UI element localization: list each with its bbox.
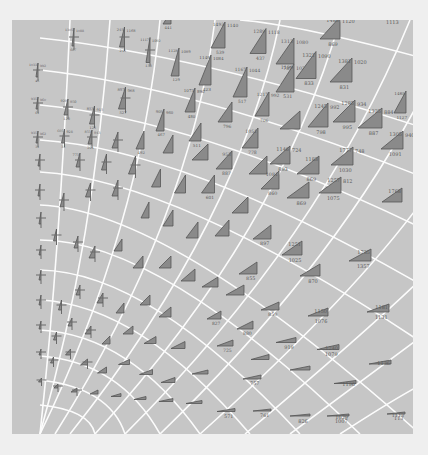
glyph-top-label: 1240 — [325, 345, 338, 351]
triangle-glyph — [57, 300, 67, 314]
glyph-bottom-label: 437 — [256, 56, 265, 61]
triangle-glyph — [251, 355, 269, 360]
triangle-glyph: 855 — [239, 262, 257, 281]
triangle-shape — [152, 169, 161, 187]
glyph-top-label: 897 — [117, 88, 125, 92]
triangle-glyph — [134, 397, 146, 400]
glyph-bottom-label: 893 — [278, 166, 288, 172]
triangle-glyph: 11501076 — [308, 308, 328, 324]
triangle-glyph — [161, 378, 175, 383]
triangle-glyph — [290, 366, 310, 370]
triangle-shape — [161, 378, 175, 383]
glyph-top-label: 1128 — [168, 48, 178, 53]
triangle-shape — [90, 390, 98, 394]
glyph-right-label: 1168 — [127, 29, 136, 33]
triangle-glyph — [35, 154, 45, 170]
triangle-glyph: 1051778 — [242, 128, 258, 155]
glyph-top-label: 1183 — [305, 156, 318, 162]
triangle-glyph: 13051088667 — [65, 28, 84, 52]
glyph-bottom-label: 571 — [224, 414, 233, 419]
glyph-bottom-label: 833 — [304, 80, 314, 86]
figure-photo: 1305108866724511682451117109213311281089… — [0, 0, 428, 455]
triangle-glyph: 725 — [217, 340, 233, 353]
glyph-top-label: 605 — [57, 129, 63, 133]
triangle-glyph: 17777481030 — [331, 147, 365, 173]
triangle-glyph: 897 — [253, 225, 271, 246]
glyph-top-label: 935 — [31, 97, 37, 101]
triangle-glyph: 1136 — [369, 360, 391, 366]
glyph-right-label: 1120 — [342, 20, 355, 24]
triangle-glyph — [98, 367, 107, 373]
glyph-right-label: 812 — [343, 178, 353, 184]
triangle-glyph: 919 — [276, 338, 296, 351]
glyph-bottom-label: 869 — [328, 41, 338, 47]
triangle-glyph — [202, 277, 218, 287]
triangle-shape — [300, 264, 320, 276]
triangle-glyph: 11491084423 — [199, 55, 224, 92]
glyph-bottom-label: 1007 — [335, 418, 348, 424]
glyph-top-label: 1251 — [288, 241, 301, 247]
triangle-shape — [186, 401, 202, 404]
triangle-glyph — [140, 295, 150, 305]
triangle-glyph: 897968527 — [117, 87, 135, 115]
glyph-top-label: 1777 — [339, 147, 352, 153]
glyph-top-label: 1136 — [377, 360, 390, 366]
triangle-glyph — [89, 246, 100, 262]
triangle-shape — [133, 256, 143, 268]
glyph-right-label: 724 — [292, 147, 302, 153]
glyph-bottom-label: 1127 — [396, 115, 407, 120]
glyph-bottom-label: 778 — [248, 150, 257, 155]
triangle-glyph: 13811020831 — [330, 58, 367, 90]
triangle-glyph — [171, 342, 185, 349]
triangle-glyph: 1245992798 — [308, 103, 340, 135]
glyph-bottom-label: 869 — [307, 176, 317, 182]
triangle-glyph: 853915125 — [87, 106, 103, 130]
triangle-glyph — [97, 293, 108, 307]
glyph-top-label: 1181 — [375, 304, 388, 310]
glyph-right-label: 1090 — [318, 53, 331, 59]
glyph-bottom-label: 492 — [138, 150, 146, 155]
triangle-glyph — [249, 156, 267, 174]
triangle-shape — [202, 175, 215, 193]
glyph-bottom-label: 31 — [61, 145, 65, 149]
glyph-bottom-label: 129 — [173, 77, 181, 82]
triangle-glyph: 869 — [287, 182, 309, 206]
triangle-glyph: 796 — [218, 102, 232, 129]
triangle-shape — [171, 342, 185, 349]
glyph-bottom-label: 531 — [283, 94, 292, 99]
triangle-glyph — [226, 285, 244, 295]
glyph-right-label: 960 — [40, 98, 46, 102]
triangle-glyph — [102, 154, 112, 174]
triangle-shape — [123, 326, 133, 334]
glyph-bottom-label: 441 — [165, 25, 172, 30]
triangle-glyph — [112, 132, 123, 152]
triangle-glyph — [144, 337, 156, 344]
triangle-glyph: 1183869 — [297, 156, 319, 182]
glyph-bottom-label: 1076 — [315, 318, 328, 324]
glyph-bottom-label: 133 — [145, 64, 151, 68]
triangle-glyph — [163, 135, 173, 153]
glyph-right-label: 1089 — [181, 49, 191, 54]
triangle-shape — [116, 303, 124, 313]
glyph-top-label: 773 — [73, 153, 79, 157]
triangle-shape — [102, 336, 110, 344]
triangle-glyph: 1217992706 — [255, 92, 280, 123]
triangle-glyph-layer: 1305108866724511682451117109213311281089… — [12, 20, 413, 434]
glyph-top-label: 1321 — [302, 52, 315, 58]
glyph-right-label: 1140 — [227, 23, 238, 28]
triangle-shape — [261, 302, 279, 310]
glyph-bottom-label: 245 — [119, 49, 126, 53]
triangle-glyph — [159, 256, 171, 268]
glyph-top-label: 905 — [156, 109, 164, 114]
triangle-shape — [114, 239, 122, 251]
glyph-bottom-label: 850 — [268, 312, 277, 317]
glyph-bottom-label: 757 — [250, 381, 259, 386]
glyph-top-label: 1485 — [326, 20, 339, 23]
triangle-glyph: 93596231 — [31, 131, 46, 149]
triangle-glyph: 773 — [73, 153, 85, 171]
triangle-glyph: 2451168245 — [117, 27, 136, 53]
triangle-shape — [217, 409, 235, 412]
triangle-glyph: 827 — [207, 311, 221, 326]
glyph-top-label: 1051 — [245, 129, 257, 134]
glyph-bottom-label: 517 — [238, 99, 247, 104]
